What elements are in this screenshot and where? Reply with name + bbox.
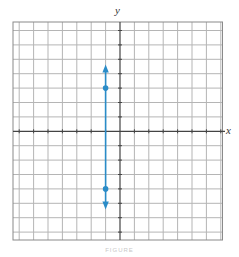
arrow-up-icon xyxy=(102,65,108,73)
coordinate-plane xyxy=(0,0,239,257)
y-axis-label: y xyxy=(115,4,120,16)
data-series xyxy=(102,65,108,210)
figure-caption: FIGURE xyxy=(0,247,239,253)
arrow-down-icon xyxy=(102,202,108,210)
x-axis-label: x xyxy=(226,124,231,136)
axes xyxy=(13,22,225,240)
data-point xyxy=(103,85,109,91)
data-point xyxy=(103,186,109,192)
